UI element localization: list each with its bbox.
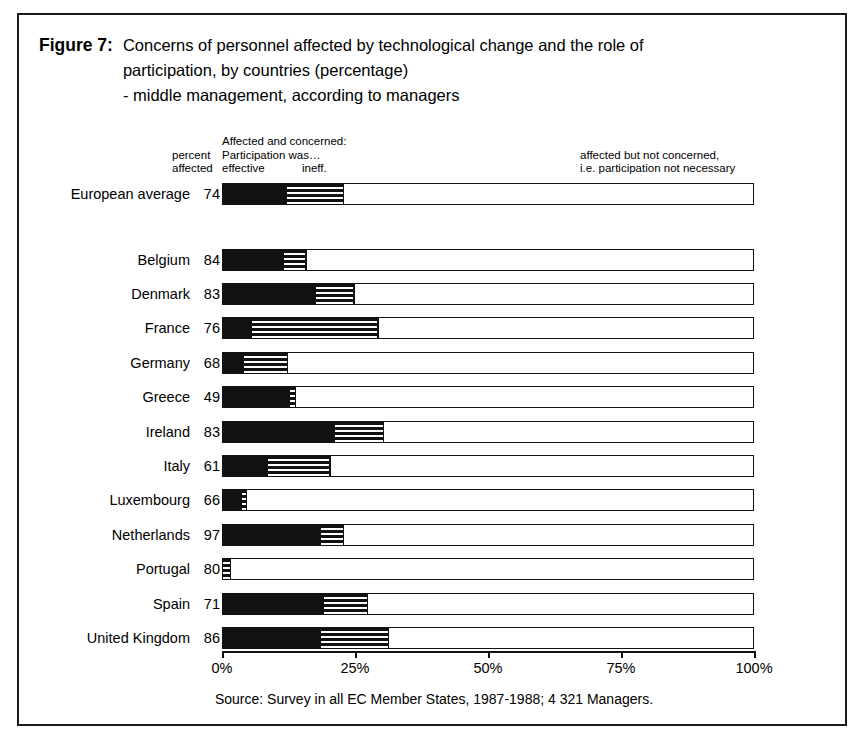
segment-divider [343, 525, 345, 545]
x-axis-tick-label: 75% [606, 660, 635, 676]
x-axis: 0%25%50%75%100% [222, 651, 754, 681]
x-axis-tick [621, 651, 623, 658]
bar-row: Italy61 [19, 455, 849, 479]
bar-track [222, 283, 754, 305]
country-label: European average [71, 186, 190, 202]
bar-track [222, 627, 754, 649]
segment-divider [230, 559, 232, 579]
bar-row: Germany68 [19, 352, 849, 376]
bar-row: Ireland83 [19, 421, 849, 445]
segment-divider [295, 387, 297, 407]
segment-ineffective [335, 422, 383, 442]
segment-divider [377, 318, 379, 338]
x-axis-tick [222, 651, 224, 658]
percent-affected-value: 97 [190, 527, 220, 543]
segment-ineffective [252, 318, 377, 338]
bar-track [222, 421, 754, 443]
segment-ineffective [284, 250, 305, 270]
bar-track [222, 183, 754, 205]
x-axis-tick-label: 25% [340, 660, 369, 676]
bar-row: Greece49 [19, 386, 849, 410]
bar-row: Luxembourg66 [19, 489, 849, 513]
segment-ineffective [324, 594, 367, 614]
bar-track [222, 249, 754, 271]
x-axis-tick-label: 0% [212, 660, 233, 676]
percent-affected-value: 76 [190, 320, 220, 336]
bar-track [222, 455, 754, 477]
segment-ineffective [268, 456, 329, 476]
segment-effective [223, 353, 244, 373]
country-label: Ireland [146, 424, 190, 440]
segment-effective [223, 525, 321, 545]
percent-affected-value: 80 [190, 561, 220, 577]
segment-effective [223, 422, 335, 442]
country-label: Luxembourg [109, 492, 190, 508]
country-label: Denmark [131, 286, 190, 302]
segment-divider [287, 353, 289, 373]
segment-ineffective [223, 559, 230, 579]
country-label: Netherlands [112, 527, 190, 543]
percent-affected-value: 66 [190, 492, 220, 508]
segment-ineffective [287, 184, 343, 204]
percent-affected-value: 68 [190, 355, 220, 371]
percent-affected-value: 83 [190, 424, 220, 440]
percent-affected-value: 61 [190, 458, 220, 474]
bar-track [222, 489, 754, 511]
segment-effective [223, 456, 268, 476]
bar-row: United Kingdom86 [19, 627, 849, 651]
segment-divider [388, 628, 390, 648]
bar-track [222, 593, 754, 615]
bar-row: Denmark83 [19, 283, 849, 307]
bar-row: Spain71 [19, 593, 849, 617]
source-note: Source: Survey in all EC Member States, … [19, 691, 849, 707]
country-label: Italy [163, 458, 190, 474]
bar-row: European average74 [19, 183, 849, 207]
bar-track [222, 386, 754, 408]
country-label: Greece [142, 389, 190, 405]
percent-affected-value: 74 [190, 186, 220, 202]
segment-divider [305, 250, 307, 270]
segment-ineffective [321, 525, 342, 545]
segment-effective [223, 490, 242, 510]
segment-divider [329, 456, 331, 476]
x-axis-tick [488, 651, 490, 658]
country-label: United Kingdom [87, 630, 190, 646]
chart-plot-area: European average74Belgium84Denmark83Fran… [19, 15, 849, 728]
segment-effective [223, 284, 316, 304]
segment-ineffective [316, 284, 353, 304]
bar-track [222, 317, 754, 339]
segment-effective [223, 628, 321, 648]
bar-row: Belgium84 [19, 249, 849, 273]
country-label: France [145, 320, 190, 336]
country-label: Portugal [136, 561, 190, 577]
segment-divider [367, 594, 369, 614]
percent-affected-value: 49 [190, 389, 220, 405]
percent-affected-value: 86 [190, 630, 220, 646]
bar-track [222, 352, 754, 374]
bar-row: France76 [19, 317, 849, 341]
country-label: Belgium [138, 252, 190, 268]
segment-divider [353, 284, 355, 304]
segment-effective [223, 594, 324, 614]
segment-effective [223, 318, 252, 338]
segment-divider [383, 422, 385, 442]
segment-effective [223, 250, 284, 270]
segment-ineffective [244, 353, 287, 373]
segment-effective [223, 387, 290, 407]
country-label: Spain [153, 596, 190, 612]
percent-affected-value: 83 [190, 286, 220, 302]
bar-track [222, 524, 754, 546]
percent-affected-value: 84 [190, 252, 220, 268]
bar-row: Portugal80 [19, 558, 849, 582]
x-axis-tick [754, 651, 756, 658]
segment-ineffective [321, 628, 388, 648]
x-axis-tick-label: 50% [473, 660, 502, 676]
bar-track [222, 558, 754, 580]
x-axis-tick [355, 651, 357, 658]
segment-divider [343, 184, 345, 204]
segment-divider [246, 490, 248, 510]
percent-affected-value: 71 [190, 596, 220, 612]
country-label: Germany [130, 355, 190, 371]
figure-frame: Figure 7: Concerns of personnel affected… [17, 13, 847, 726]
bar-row: Netherlands97 [19, 524, 849, 548]
